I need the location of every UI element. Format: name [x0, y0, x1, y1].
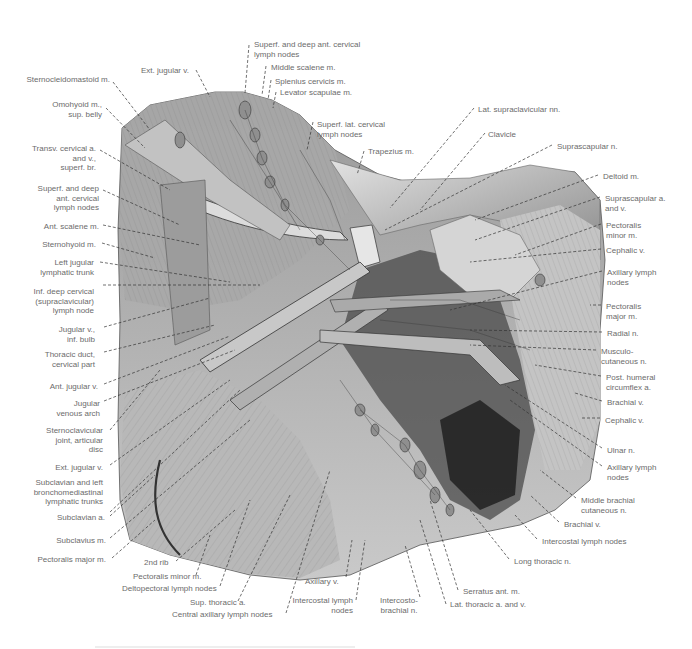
label-cephalic-v-upper: Cephalic v.	[606, 246, 645, 256]
label-intercostal-nodes-bottom: Intercostal lymph nodes	[291, 596, 353, 615]
label-lat-thoracic: Lat. thoracic a. and v.	[450, 600, 526, 610]
label-cephalic-v-lower: Cephalic v.	[605, 416, 644, 426]
label-brachial-v-lower: Brachial v.	[564, 520, 601, 530]
label-superf-lat-cervical: Superf. lat. cervical lymph nodes	[317, 120, 385, 139]
label-axillary-nodes-lower: Axillary lymph nodes	[607, 463, 656, 482]
label-ant-scalene: Ant. scalene m.	[44, 222, 99, 232]
caption-remnant	[95, 646, 355, 648]
label-inf-deep-cervical-node: Inf. deep cervical (supraclavicular) lym…	[34, 287, 94, 316]
label-subclavian-a: Subclavian a.	[57, 513, 105, 523]
label-superf-deep-ant-cervical-nodes: Superf. and deep ant. cervical lymph nod…	[38, 184, 99, 213]
label-radial-n: Radial n.	[607, 329, 639, 339]
label-jugular-inf-bulb: Jugular v., inf. bulb	[59, 325, 95, 344]
label-suprascapular-av: Suprascapular a. and v.	[605, 194, 665, 213]
label-serratus-ant: Serratus ant. m.	[463, 587, 520, 597]
label-middle-scalene: Middle scalene m.	[271, 63, 335, 73]
label-central-axillary-nodes: Central axillary lymph nodes	[172, 610, 273, 620]
label-transv-cervical: Transv. cervical a. and v., superf. br.	[32, 144, 96, 173]
label-axillary-v: Axillary v.	[305, 577, 339, 587]
label-left-jugular-trunk: Left jugular lymphatic trunk	[40, 258, 94, 277]
label-splenius-cervicis: Splenius cervicis m.	[275, 77, 346, 87]
label-2nd-rib: 2nd rib	[144, 558, 168, 568]
label-musculocutaneous: Musculo- cutaneous n.	[601, 347, 647, 366]
label-ext-jugular-left: Ext. jugular v.	[55, 463, 103, 473]
label-sternoclavicular-joint: Sternoclavicular joint, articular disc	[46, 426, 103, 455]
label-trapezius: Trapezius m.	[368, 147, 414, 157]
label-intercostal-nodes-right: Intercostal lymph nodes	[542, 537, 627, 547]
label-brachial-v-upper: Brachial v.	[607, 398, 644, 408]
label-sternohyoid: Sternohyoid m.	[42, 240, 96, 250]
label-jugular-venous-arch: Jugular venous arch	[56, 399, 100, 418]
label-levator-scapulae: Levator scapulae m.	[280, 88, 352, 98]
label-ulnar-n: Ulnar n.	[607, 446, 635, 456]
label-subclavius: Subclavius m.	[56, 536, 106, 546]
label-pectoralis-major-left: Pectoralis major m.	[38, 555, 106, 565]
label-axillary-nodes-upper: Axillary lymph nodes	[607, 268, 656, 287]
label-post-humeral-circumflex: Post. humeral circumflex a.	[606, 373, 655, 392]
label-sternocleidomastoid: Sternocleidomastoid m.	[26, 75, 110, 85]
label-intercostobrachial: Intercosto- brachial n.	[380, 596, 418, 615]
label-omohyoid: Omohyoid m., sup. belly	[52, 100, 102, 119]
label-middle-brachial-cutaneous: Middle brachial cutaneous n.	[581, 496, 635, 515]
label-thoracic-duct: Thoracic duct, cervical part	[45, 350, 95, 369]
label-deltoid: Deltoid m.	[603, 172, 639, 182]
label-suprascapular-n: Suprascapular n.	[557, 142, 617, 152]
label-pectoralis-minor-bottom: Pectoralis minor m.	[133, 572, 201, 582]
anatomical-figure: Sternocleidomastoid m. Omohyoid m., sup.…	[0, 0, 692, 649]
label-subclavian-trunks: Subclavian and left bronchomediastinal l…	[34, 478, 103, 507]
label-clavicle: Clavicle	[488, 130, 516, 140]
label-sup-thoracic: Sup. thoracic a.	[190, 598, 246, 608]
label-superf-deep-ant-cervical-top: Superf. and deep ant. cervical lymph nod…	[254, 40, 360, 59]
label-pectoralis-minor: Pectoralis minor m.	[606, 221, 641, 240]
label-ext-jugular-top: Ext. jugular v.	[141, 66, 189, 76]
label-deltopectoral-nodes: Deltopectoral lymph nodes	[122, 584, 217, 594]
label-lat-supraclavicular: Lat. supraclavicular nn.	[478, 105, 560, 115]
label-ant-jugular: Ant. jugular v.	[50, 382, 98, 392]
label-pectoralis-major-right: Pectoralis major m.	[606, 302, 641, 321]
label-long-thoracic: Long thoracic n.	[514, 557, 571, 567]
